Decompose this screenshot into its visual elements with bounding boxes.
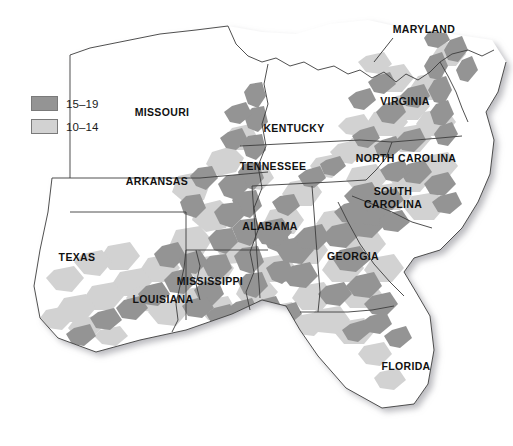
state-label-maryland: MARYLAND xyxy=(393,23,456,35)
state-label-tennessee: TENNESSEE xyxy=(240,160,307,172)
legend-label-high: 15–19 xyxy=(66,98,98,110)
state-label-florida: FLORIDA xyxy=(381,360,430,372)
state-label-alabama: ALABAMA xyxy=(242,220,298,232)
state-label-louisiana: LOUISIANA xyxy=(133,293,194,305)
state-label-mississippi: MISSISSIPPI xyxy=(177,275,243,287)
legend-label-low: 10–14 xyxy=(66,121,98,133)
state-label-south-carolina-line2: CAROLINA xyxy=(364,197,422,210)
legend-swatch-high xyxy=(31,96,58,111)
state-label-missouri: MISSOURI xyxy=(135,106,190,118)
state-label-north-carolina: NORTH CAROLINA xyxy=(356,152,457,164)
state-label-virginia: VIRGINIA xyxy=(380,95,429,107)
state-label-arkansas: ARKANSAS xyxy=(126,175,188,187)
state-label-texas: TEXAS xyxy=(59,251,96,263)
map-legend: 15–19 10–14 xyxy=(31,96,141,142)
state-label-south-carolina-line1: SOUTH xyxy=(364,185,422,198)
legend-swatch-low xyxy=(31,119,58,134)
legend-row-high: 15–19 xyxy=(31,96,141,111)
state-label-georgia: GEORGIA xyxy=(327,250,379,262)
state-label-south-carolina: SOUTH CAROLINA xyxy=(364,185,422,210)
legend-row-low: 10–14 xyxy=(31,119,141,134)
state-label-kentucky: KENTUCKY xyxy=(263,122,324,134)
map-figure: 15–19 10–14 MARYLAND VIRGINIA NORTH CARO… xyxy=(0,0,513,446)
